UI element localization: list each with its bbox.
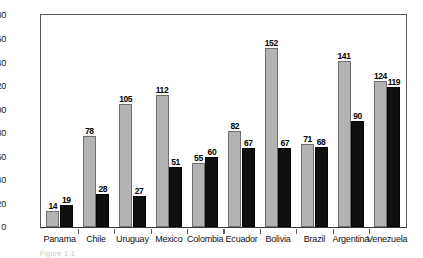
x-axis-tick-mark <box>78 229 79 234</box>
x-axis-tick-mark <box>187 229 188 234</box>
x-axis-tick-mark <box>296 229 297 234</box>
x-axis-category-label: Chile <box>86 234 106 244</box>
x-axis-tick-mark <box>369 229 370 234</box>
x-axis-tick-mark <box>151 229 152 234</box>
bar-chart: 020406080100120140160180 141978281052711… <box>0 0 423 258</box>
x-axis: PanamaChileUruguayMexicoColombiaEcuadorB… <box>0 0 423 258</box>
x-axis-tick-mark <box>223 229 224 234</box>
x-axis-category-label: Bolivia <box>265 234 290 244</box>
figure-caption: Figure 1-1 <box>40 250 75 258</box>
x-axis-tick-mark <box>260 229 261 234</box>
x-axis-category-label: Argentina <box>332 234 369 244</box>
x-axis-category-label: Mexico <box>155 234 182 244</box>
x-axis-category-label: Colombia <box>187 234 223 244</box>
x-axis-tick-mark <box>333 229 334 234</box>
x-axis-tick-mark <box>114 229 115 234</box>
x-axis-category-label: Panama <box>43 234 75 244</box>
x-axis-category-label: Uruguay <box>116 234 149 244</box>
x-axis-category-label: Ecuador <box>226 234 258 244</box>
x-axis-category-label: Venezuela <box>367 234 407 244</box>
x-axis-category-label: Brazil <box>304 234 325 244</box>
